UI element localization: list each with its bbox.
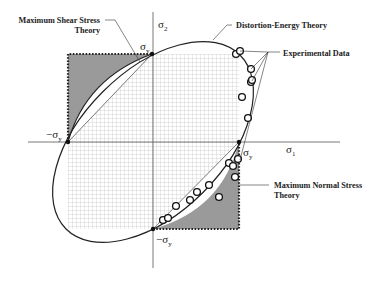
label-distortion-energy: Distortion-Energy Theory xyxy=(236,21,328,30)
failure-theory-diagram: Maximum Shear Stress Theory Distortion-E… xyxy=(0,0,377,283)
experimental-data-point xyxy=(249,77,256,84)
label-right-sigma-y: σy xyxy=(243,146,253,161)
point-right-sigma-y xyxy=(237,140,241,144)
experimental-data-point xyxy=(173,203,180,210)
point-left-neg-sigma-y xyxy=(66,140,70,144)
leader-distortion xyxy=(213,25,232,40)
experimental-data-point xyxy=(216,194,223,201)
experimental-data-point xyxy=(165,215,172,222)
label-max-shear-line2: Theory xyxy=(75,26,101,35)
label-max-normal-line2: Theory xyxy=(274,191,300,200)
experimental-data-point xyxy=(187,197,194,204)
x-axis-label: σ1 xyxy=(286,143,296,158)
experimental-data-point xyxy=(230,163,237,170)
experimental-data-point xyxy=(206,182,213,189)
experimental-data-point xyxy=(239,94,246,101)
experimental-data-point xyxy=(194,189,201,196)
label-left-neg-sigma-y: −σy xyxy=(46,128,62,143)
experimental-data-point xyxy=(232,174,239,181)
leader-experimental xyxy=(240,51,280,160)
label-max-shear-line1: Maximum Shear Stress xyxy=(18,16,100,25)
label-experimental-data: Experimental Data xyxy=(283,49,350,58)
label-top-sigma-y: σy xyxy=(140,40,150,55)
point-bottom-neg-sigma-y xyxy=(151,227,155,231)
point-top-sigma-y xyxy=(150,52,154,56)
label-bottom-neg-sigma-y: −σy xyxy=(156,233,172,248)
y-axis-label: σ2 xyxy=(158,18,168,33)
label-max-normal-line1: Maximum Normal Stress xyxy=(274,181,362,190)
